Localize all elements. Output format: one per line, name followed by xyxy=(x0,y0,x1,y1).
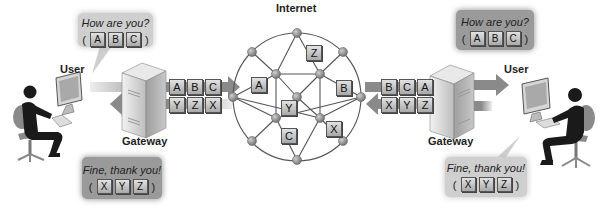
network-nodes xyxy=(229,29,366,165)
packet: A xyxy=(169,79,185,95)
packet: Z xyxy=(417,97,433,113)
node xyxy=(293,156,302,165)
packet: Y xyxy=(479,177,494,192)
right-incoming-packets: B C A xyxy=(380,79,434,95)
packet: C xyxy=(506,31,521,46)
left-top-bubble-tail xyxy=(92,46,112,74)
packet: C xyxy=(205,79,221,95)
left-gateway-label: Gateway xyxy=(122,135,167,147)
left-user-label: User xyxy=(60,63,84,75)
packet: Z xyxy=(133,179,148,194)
right-gateway-label: Gateway xyxy=(428,135,473,147)
packet: X xyxy=(461,177,476,192)
network-packet-y: Y xyxy=(281,100,297,116)
packet: B xyxy=(488,31,503,46)
packet: A xyxy=(90,32,105,47)
right-user-label: User xyxy=(504,63,528,75)
packet: X xyxy=(97,179,112,194)
packet: A xyxy=(470,31,485,46)
packet: Z xyxy=(187,97,203,113)
internet-label: Internet xyxy=(276,2,316,14)
right-message-bubble-question: How are you? ( A B C ) xyxy=(456,10,534,50)
packet: Y xyxy=(115,179,130,194)
left-incoming-packets: Y Z X xyxy=(168,97,222,113)
node xyxy=(229,93,238,102)
left-gateway-server-icon xyxy=(122,63,166,138)
node xyxy=(357,93,366,102)
node xyxy=(339,48,348,57)
packet: A xyxy=(417,79,433,95)
bubble-text: Fine, thank you! xyxy=(82,164,162,177)
node xyxy=(248,48,257,57)
right-outgoing-arrow-to-user xyxy=(470,74,509,96)
packet: C xyxy=(399,79,415,95)
right-gateway-server-icon xyxy=(430,65,474,139)
right-outgoing-packets: X Y Z xyxy=(380,97,434,113)
network-diagram: Internet User Gateway User Gateway How a… xyxy=(0,0,609,211)
packet: B xyxy=(108,32,123,47)
right-user-figure xyxy=(522,78,595,168)
network-packet-a: A xyxy=(251,77,267,93)
packet: C xyxy=(126,32,141,47)
left-message-bubble-reply: Fine, thank you! ( X Y Z ) xyxy=(82,157,162,199)
node xyxy=(272,114,281,123)
packet: X xyxy=(205,97,221,113)
node xyxy=(316,70,325,79)
bubble-text: How are you? xyxy=(456,16,534,29)
packet: Y xyxy=(399,97,415,113)
packet: Z xyxy=(497,177,512,192)
network-packet-b: B xyxy=(336,80,352,96)
packet: Y xyxy=(169,97,185,113)
network-packet-c: C xyxy=(281,128,297,144)
packet: B xyxy=(381,79,397,95)
node xyxy=(316,114,325,123)
right-message-bubble-reply: Fine, thank you! ( X Y Z ) xyxy=(445,157,527,197)
node xyxy=(339,137,348,146)
node xyxy=(248,137,257,146)
network-packet-z: Z xyxy=(306,45,322,61)
network-packet-x: X xyxy=(326,121,342,137)
left-message-bubble-question: How are you? ( A B C ) xyxy=(78,13,153,47)
node xyxy=(272,70,281,79)
left-outgoing-packets: A B C xyxy=(168,79,222,95)
node xyxy=(293,29,302,38)
packet: B xyxy=(187,79,203,95)
bubble-text: Fine, thank you! xyxy=(445,162,527,175)
bubble-text: How are you? xyxy=(78,17,153,30)
left-user-figure xyxy=(13,72,82,162)
packet: X xyxy=(381,97,397,113)
